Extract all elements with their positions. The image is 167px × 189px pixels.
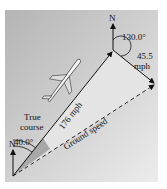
north-label-top: N: [109, 13, 116, 23]
airplane-vector-diagram: N N 130.0° 45.5 mph 176 mph True course …: [0, 0, 167, 189]
true-course-label-2: course: [20, 122, 44, 132]
wind-speed-label-1: 45.5: [137, 51, 153, 61]
heading-angle-label: 40.0°: [14, 137, 34, 147]
true-course-label-1: True: [24, 112, 41, 122]
wind-speed-label-2: mph: [134, 61, 151, 71]
wind-angle-label: 130.0°: [122, 32, 146, 42]
